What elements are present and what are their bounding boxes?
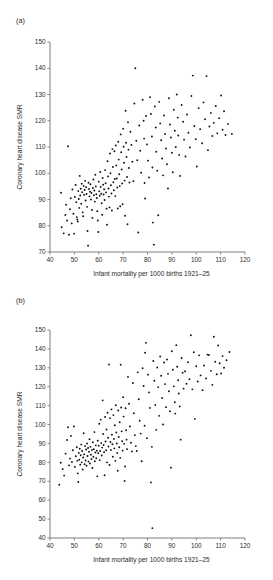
data-point [220, 373, 222, 375]
data-point [117, 410, 119, 412]
data-point [110, 184, 112, 186]
data-point [118, 173, 120, 175]
data-point [123, 162, 125, 164]
data-point [126, 439, 128, 441]
data-point [208, 126, 210, 128]
data-point [116, 178, 118, 180]
data-point [96, 210, 98, 212]
data-point [194, 418, 196, 420]
x-tick-label: 80 [144, 542, 152, 549]
data-point [226, 359, 228, 361]
x-tick-label: 100 [191, 256, 202, 263]
data-point [145, 342, 147, 344]
x-tick-label: 80 [144, 256, 152, 263]
data-point [174, 413, 176, 415]
data-point [90, 199, 92, 201]
data-point [69, 208, 71, 210]
data-point [142, 367, 144, 369]
data-point [124, 215, 126, 217]
data-point [147, 374, 149, 376]
data-point [204, 118, 206, 120]
data-point [88, 451, 90, 453]
y-tick-label: 110 [35, 143, 46, 150]
x-tick-label: 90 [168, 256, 176, 263]
data-point [94, 460, 96, 462]
data-point [79, 175, 81, 177]
data-point [92, 187, 94, 189]
data-point [112, 166, 114, 168]
data-point [160, 375, 162, 377]
data-point [136, 450, 138, 452]
data-point [144, 352, 146, 354]
data-point [87, 230, 89, 232]
data-point [92, 441, 94, 443]
data-point [77, 472, 79, 474]
y-tick-label: 130 [35, 91, 46, 98]
data-point [105, 182, 107, 184]
data-point [211, 384, 213, 386]
data-point [182, 372, 184, 374]
data-point [111, 443, 113, 445]
data-point [116, 443, 118, 445]
data-point [82, 211, 84, 213]
data-point [216, 373, 218, 375]
data-point [176, 94, 178, 96]
data-point [157, 386, 159, 388]
data-point [128, 167, 130, 169]
x-tick-label: 50 [71, 542, 79, 549]
data-point [110, 408, 112, 410]
x-axis-title: Infant mortality per 1000 births 1921–25 [93, 270, 210, 278]
data-point [132, 180, 134, 182]
data-point [137, 371, 139, 373]
figure-panel-a: (a) 708090100110120130140150405060708090… [0, 0, 273, 290]
data-point [215, 105, 217, 107]
data-point [164, 133, 166, 135]
data-point [100, 193, 102, 195]
data-point [105, 441, 107, 443]
data-point [143, 385, 145, 387]
data-point [115, 164, 117, 166]
data-point [106, 224, 108, 226]
data-point [197, 380, 199, 382]
data-point [106, 461, 108, 463]
data-point [110, 449, 112, 451]
data-point [94, 174, 96, 176]
data-point [109, 417, 111, 419]
data-point [67, 426, 69, 428]
data-point [114, 424, 116, 426]
data-point [66, 220, 68, 222]
y-tick-label: 80 [38, 459, 46, 466]
data-point [146, 437, 148, 439]
data-point [170, 137, 172, 139]
data-point [61, 226, 63, 228]
data-point [181, 357, 183, 359]
data-point [87, 447, 89, 449]
data-point [107, 160, 109, 162]
data-point [101, 455, 103, 457]
data-point [102, 399, 104, 401]
data-point [184, 370, 186, 372]
data-point [188, 378, 190, 380]
data-point [125, 142, 127, 144]
data-point [129, 131, 131, 133]
data-point [158, 415, 160, 417]
data-point [60, 462, 62, 464]
data-point [171, 350, 173, 352]
data-point [127, 376, 129, 378]
data-point [112, 414, 114, 416]
data-point [133, 102, 135, 104]
data-point [84, 189, 86, 191]
scatter-plot-a: 7080901001101201301401504050607080901001… [0, 0, 273, 290]
data-point [214, 361, 216, 363]
data-point [92, 456, 94, 458]
data-point [108, 446, 110, 448]
x-tick-label: 70 [120, 542, 128, 549]
y-tick-label: 80 [38, 222, 46, 229]
data-point [206, 75, 208, 77]
data-point [93, 448, 95, 450]
data-point [205, 377, 207, 379]
y-axis-title: Coronary heart disease SMR [16, 104, 24, 189]
data-point [147, 160, 149, 162]
data-point [122, 203, 124, 205]
data-point [93, 190, 95, 192]
